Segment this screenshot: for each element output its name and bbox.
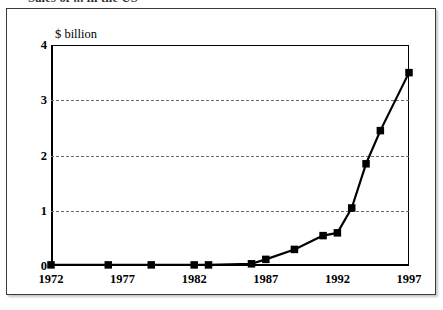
data-point-marker-1979: [147, 261, 155, 269]
chart-screenshot: Sales of ... in the US $ billion 01234 1…: [0, 0, 443, 310]
data-point-marker-1992: [334, 229, 342, 237]
x-tick-label-1987: 1987: [243, 273, 289, 286]
y-tick-label-0: 0: [31, 260, 47, 273]
data-point-marker-1991: [319, 232, 327, 240]
x-axis-tick-labels: 197219771982198719921997: [7, 273, 437, 293]
data-point-marker-1987: [262, 256, 270, 264]
y-tick-label-3: 3: [31, 94, 47, 107]
y-axis-tick-labels: 01234: [27, 9, 47, 296]
data-point-marker-1972: [47, 261, 55, 269]
data-point-marker-1983: [205, 261, 213, 269]
data-point-marker-1993: [348, 204, 356, 212]
data-point-marker-1976: [105, 261, 113, 269]
data-point-marker-1989: [291, 246, 299, 254]
series-polyline: [51, 73, 409, 265]
plot-area: [51, 45, 409, 266]
data-series-line: [51, 45, 409, 266]
x-tick-label-1982: 1982: [171, 273, 217, 286]
x-tick-label-1972: 1972: [28, 273, 74, 286]
figure-title-cut-off: Sales of ... in the US: [28, 0, 228, 3]
y-tick-label-4: 4: [31, 39, 47, 52]
data-point-marker-1982: [190, 261, 198, 269]
data-point-marker-1997: [405, 69, 413, 77]
y-axis-unit-label: $ billion: [55, 27, 97, 42]
y-tick-label-1: 1: [31, 205, 47, 218]
x-tick-label-1992: 1992: [314, 273, 360, 286]
data-point-marker-1995: [377, 127, 385, 135]
x-tick-label-1997: 1997: [386, 273, 432, 286]
data-point-marker-1994: [362, 160, 370, 168]
y-tick-label-2: 2: [31, 150, 47, 163]
figure-frame: $ billion 01234 197219771982198719921997: [6, 8, 436, 295]
data-point-marker-1986: [248, 260, 256, 268]
x-tick-label-1977: 1977: [100, 273, 146, 286]
